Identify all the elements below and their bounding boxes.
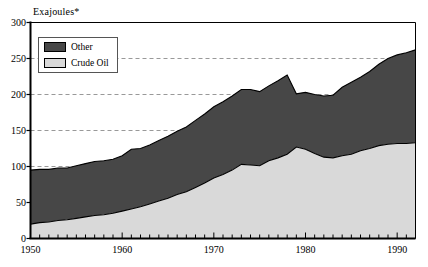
legend-item: Crude Oil (44, 58, 112, 68)
y-tick-label: 200 (0, 89, 26, 100)
y-tick-label: 50 (0, 197, 26, 208)
legend-label: Other (71, 42, 93, 52)
legend-label: Crude Oil (71, 58, 109, 68)
y-tick-label: 150 (0, 125, 26, 136)
legend-swatch (44, 42, 66, 52)
y-tick-label: 300 (0, 17, 26, 28)
legend-box: OtherCrude Oil (38, 37, 118, 73)
x-tick-label: 1990 (377, 244, 417, 255)
x-tick-label: 1970 (194, 244, 234, 255)
legend-swatch (44, 58, 66, 68)
y-tick-label: 250 (0, 53, 26, 64)
y-tick-label: 0 (0, 233, 26, 244)
energy-consumption-area-chart: Exajoules* 050100150200250300 1950196019… (0, 0, 428, 267)
x-tick-label: 1960 (102, 244, 142, 255)
y-tick-label: 100 (0, 161, 26, 172)
legend-item: Other (44, 42, 112, 52)
x-tick-label: 1980 (286, 244, 326, 255)
x-tick-label: 1950 (11, 244, 51, 255)
